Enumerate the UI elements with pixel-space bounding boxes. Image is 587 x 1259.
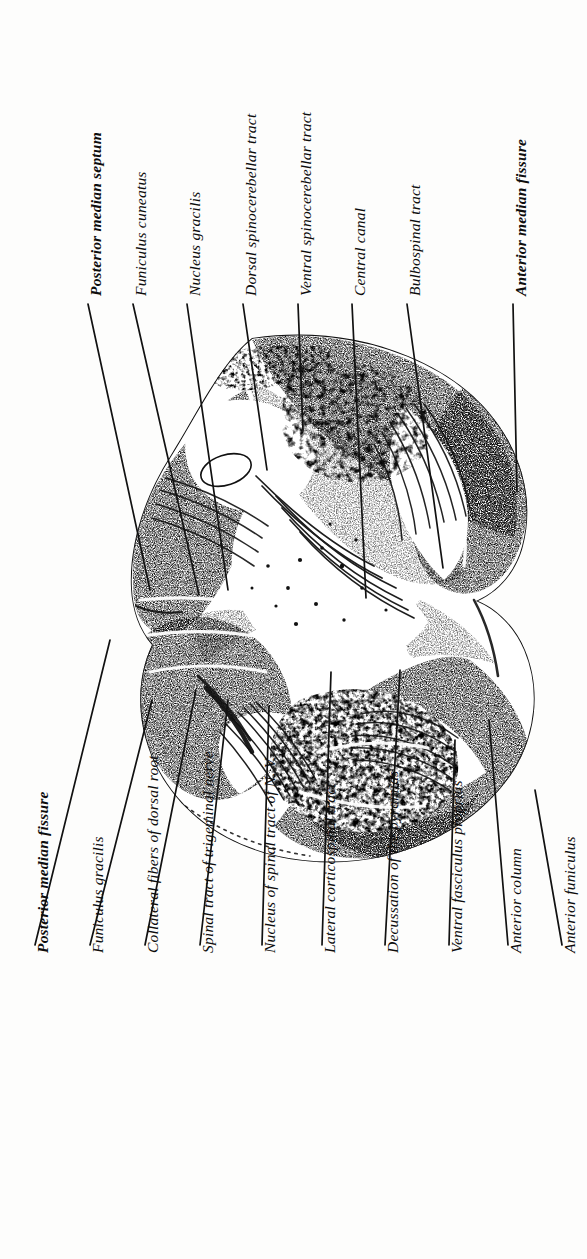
label-nucleus-of-spinal-tract-of-n-v: Nucleus of spinal tract of N. V. — [262, 757, 278, 953]
label-bulbospinal-tract: Bulbospinal tract — [407, 185, 423, 296]
label-nucleus-gracilis: Nucleus gracilis — [187, 192, 203, 296]
label-collateral-fibers-of-dorsal-root: Collateral fibers of dorsal root — [145, 755, 161, 953]
label-funiculus-cuneatus: Funiculus cuneatus — [133, 171, 149, 296]
label-posterior-median-septum: Posterior median septum — [88, 132, 104, 296]
label-funiculus-gracilis: Funiculus gracilis — [90, 836, 106, 953]
label-lateral-corticospinal-tract: Lateral corticospinal tract — [322, 783, 338, 953]
label-anterior-column: Anterior column — [508, 848, 524, 953]
label-anterior-median-fissure: Anterior median fissure — [513, 139, 529, 296]
label-ventral-fasciculus-proprius: Ventral fasciculus proprius — [449, 780, 465, 953]
label-anterior-funiculus: Anterior funiculus — [562, 836, 578, 953]
label-posterior-median-fissure: Posterior median fissure — [35, 791, 51, 953]
label-decussation-of-the-pyramids: Decussation of the pyramids — [385, 771, 401, 953]
anatomical-figure: Posterior median septumFuniculus cuneatu… — [0, 0, 587, 1259]
label-dorsal-spinocerebellar-tract: Dorsal spinocerebellar tract — [243, 114, 259, 296]
label-ventral-spinocerebellar-tract: Ventral spinocerebellar tract — [298, 112, 314, 296]
label-central-canal: Central canal — [352, 208, 368, 296]
label-spinal-tract-of-trigeminal-nerve: Spinal tract of trigeminal nerve — [200, 751, 216, 953]
